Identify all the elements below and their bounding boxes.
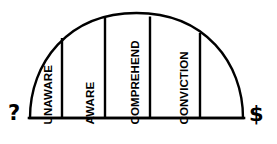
segment-label-comprehend: COMPREHEND <box>130 40 142 124</box>
segment-label-aware: AWARE <box>85 82 97 125</box>
segment-label-unaware: UNAWARE <box>43 65 55 124</box>
segment-label-conviction: CONVICTION <box>179 51 191 124</box>
question-mark-symbol: ? <box>8 103 20 124</box>
dollar-sign-symbol: $ <box>249 104 264 125</box>
arch-diagram: ? $ UNAWARE AWARE COMPREHEND CONVICTION <box>0 0 277 144</box>
